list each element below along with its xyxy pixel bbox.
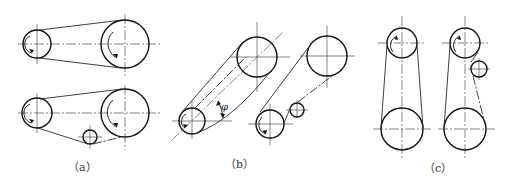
- rotation-arrow-icon: [107, 100, 117, 127]
- panel-b-inclined-belt: φ: [172, 22, 290, 140]
- panel-c: （c）: [373, 16, 495, 175]
- panel-a-open-belt: [18, 14, 160, 78]
- belt-tight-side: [260, 48, 308, 112]
- belt-to-idler: [38, 128, 88, 144]
- belt-slack-side: [39, 58, 121, 68]
- belt-drive-diagram: （a） φ: [0, 0, 510, 186]
- belt-slack-from-idler: [473, 76, 485, 124]
- panel-c-vertical-belt: [373, 16, 431, 158]
- belt-slack-from-idler: [298, 75, 333, 102]
- panel-b: φ （b）: [172, 22, 355, 171]
- panel-a-belt-with-idler: [18, 85, 160, 150]
- panel-a: （a）: [18, 14, 160, 174]
- caption-c: （c）: [424, 162, 452, 175]
- caption-b: （b）: [225, 158, 254, 171]
- caption-a: （a）: [68, 161, 97, 174]
- panel-b-inclined-belt-with-idler: [248, 26, 355, 145]
- panel-c-vertical-belt-with-idler: [438, 16, 495, 158]
- angle-phi-label: φ: [221, 101, 228, 112]
- belt-upper: [182, 43, 242, 112]
